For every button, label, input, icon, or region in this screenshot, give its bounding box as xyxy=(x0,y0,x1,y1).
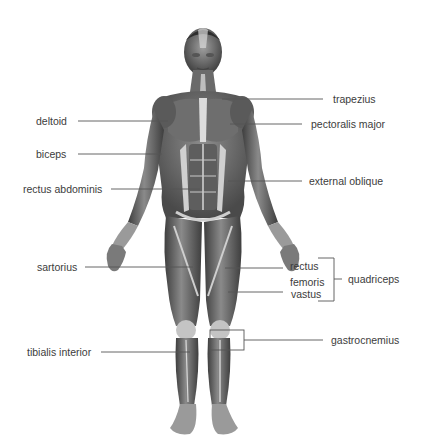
right-leg xyxy=(204,216,242,434)
left-arm xyxy=(107,110,164,271)
label-quadriceps: quadriceps xyxy=(348,273,399,285)
label-vastus: vastus xyxy=(291,288,321,300)
label-biceps: biceps xyxy=(36,148,66,160)
label-sartorius: sartorius xyxy=(37,261,77,273)
head xyxy=(184,28,222,76)
label-gastrocnemius: gastrocnemius xyxy=(331,334,399,346)
muscle-figure xyxy=(0,0,427,442)
label-femoris: femoris xyxy=(290,276,324,288)
label-deltoid: deltoid xyxy=(36,115,67,127)
torso xyxy=(152,91,254,220)
label-trapezius: trapezius xyxy=(333,93,376,105)
label-rectus: rectus xyxy=(290,260,319,272)
label-tibialis-interior: tibialis interior xyxy=(27,346,91,358)
label-rectus-abdominis: rectus abdominis xyxy=(23,183,102,195)
label-external-oblique: external oblique xyxy=(309,175,383,187)
label-pectoralis-major: pectoralis major xyxy=(311,118,385,130)
left-foot xyxy=(170,404,196,434)
right-foot xyxy=(212,404,238,434)
left-leg xyxy=(164,216,202,434)
right-arm xyxy=(242,110,299,271)
